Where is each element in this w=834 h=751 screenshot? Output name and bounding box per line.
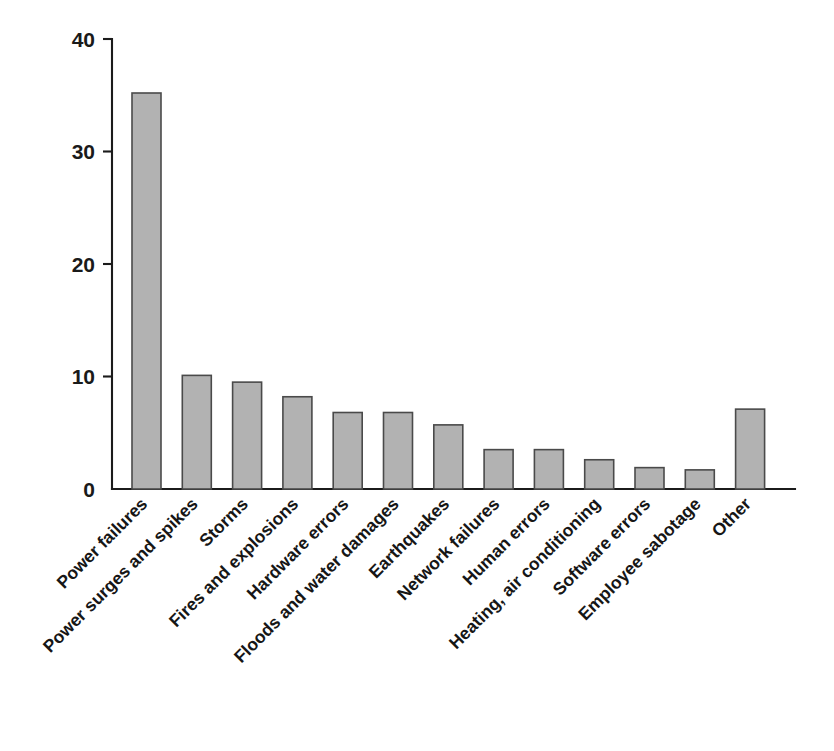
chart-background (0, 0, 834, 751)
bar (635, 468, 664, 489)
bar (132, 93, 161, 489)
y-axis-tick-label: 40 (72, 28, 95, 51)
y-axis-tick-label: 30 (72, 140, 95, 163)
bar (585, 460, 614, 489)
bar (685, 470, 714, 489)
bar (484, 450, 513, 489)
bar (182, 375, 211, 489)
bar (736, 409, 765, 489)
bar (384, 413, 413, 490)
y-axis-tick-label: 0 (83, 478, 95, 501)
bar (283, 397, 312, 489)
y-axis-tick-label: 10 (72, 365, 95, 388)
bar (434, 425, 463, 489)
bar (333, 413, 362, 490)
bar (233, 382, 262, 489)
y-axis-tick-label: 20 (72, 253, 95, 276)
bar-chart: 010203040 Power failuresPower surges and… (0, 0, 834, 751)
chart-canvas: 010203040 Power failuresPower surges and… (0, 0, 834, 751)
bar (534, 450, 563, 489)
